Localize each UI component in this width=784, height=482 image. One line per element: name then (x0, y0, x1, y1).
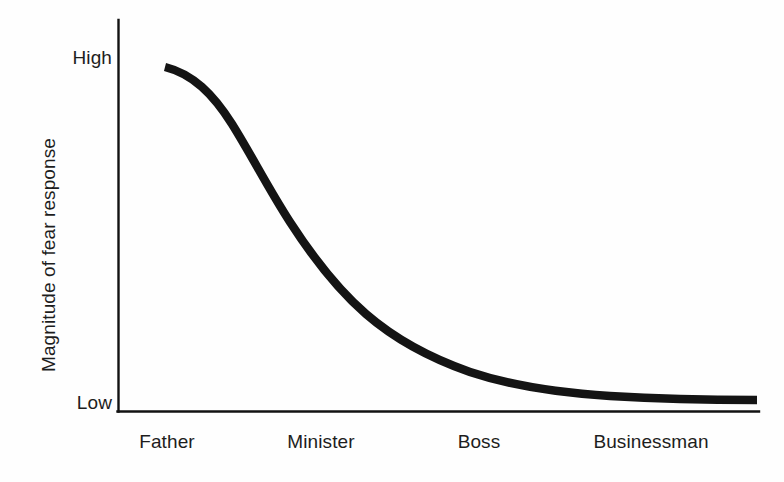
x-tick-label-boss: Boss (409, 431, 549, 453)
y-axis-low-label: Low (44, 392, 112, 414)
chart-canvas (0, 0, 784, 482)
figure-page: High Low Magnitude of fear response Fath… (0, 0, 784, 482)
data-series-group (165, 67, 757, 400)
x-tick-label-minister: Minister (251, 431, 391, 453)
x-tick-label-father: Father (97, 431, 237, 453)
axes-group (118, 20, 760, 412)
fear-response-curve (165, 67, 757, 400)
x-tick-label-businessman: Businessman (581, 431, 721, 453)
y-axis-high-label: High (44, 47, 112, 69)
y-axis-title: Magnitude of fear response (38, 138, 60, 372)
